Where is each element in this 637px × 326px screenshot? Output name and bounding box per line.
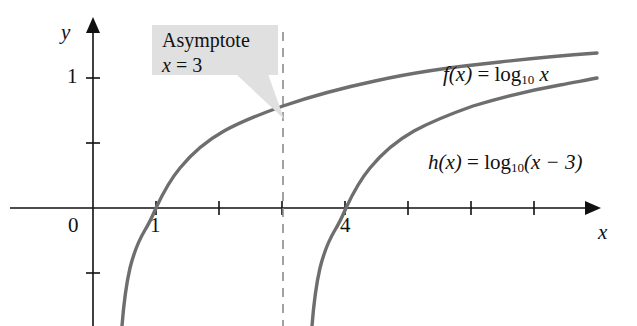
x-axis <box>10 201 601 215</box>
origin-label: 0 <box>68 215 79 236</box>
callout-equation-rest: = 3 <box>171 54 202 76</box>
h-equals: = <box>462 150 484 174</box>
callout-variable: x <box>162 54 171 76</box>
x-tick-label-1: 1 <box>150 215 161 236</box>
y-tick-label-1: 1 <box>67 66 78 87</box>
callout-line-2: x = 3 <box>162 54 278 77</box>
callout-line-1: Asymptote <box>162 29 250 51</box>
h-name: h <box>428 150 439 174</box>
x-axis-label: x <box>598 222 607 243</box>
h-base: 10 <box>511 160 524 175</box>
curve-h <box>312 78 597 326</box>
f-op: log <box>495 62 522 86</box>
h-tail: (x − 3) <box>524 150 582 174</box>
x-axis-arrowhead <box>585 201 601 215</box>
callout-pointer <box>236 74 284 119</box>
y-axis-label: y <box>61 22 70 43</box>
logarithm-graph-figure: Asymptote x = 3 y x 1 0 1 4 f(x) = log10… <box>0 0 637 326</box>
f-arg: (x) <box>449 62 472 86</box>
curve-label-f: f(x) = log10 x <box>443 64 549 86</box>
h-arg: (x) <box>439 150 462 174</box>
h-op: log <box>484 150 511 174</box>
y-axis-arrowhead <box>86 17 100 33</box>
curve-f <box>122 53 597 326</box>
f-tail: x <box>534 62 549 86</box>
y-axis <box>86 17 100 326</box>
x-tick-label-4: 4 <box>340 215 351 236</box>
f-base: 10 <box>521 72 534 87</box>
curve-label-h: h(x) = log10(x − 3) <box>428 152 582 174</box>
callout-label: Asymptote x = 3 <box>152 25 278 75</box>
f-equals: = <box>472 62 494 86</box>
